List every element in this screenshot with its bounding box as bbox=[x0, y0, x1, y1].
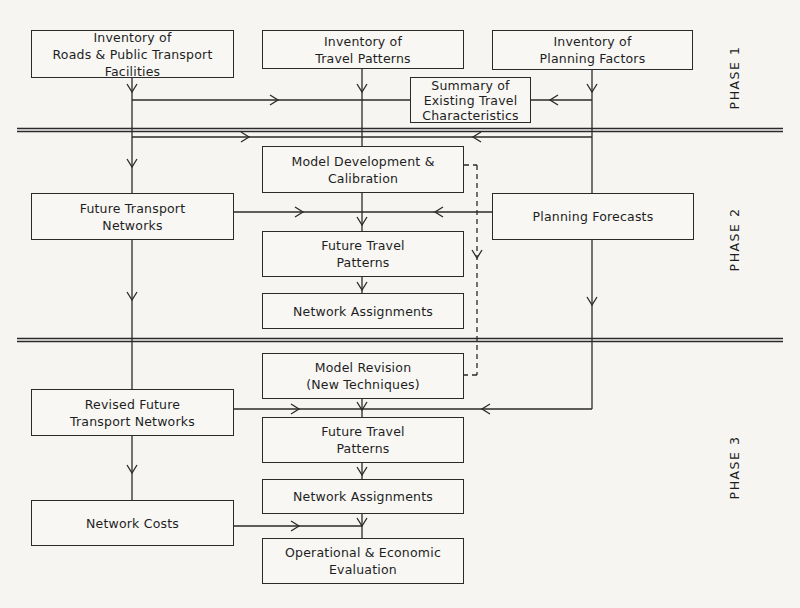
node-summary-existing-travel: Summary of Existing Travel Characteristi… bbox=[410, 77, 531, 123]
node-future-travel-patterns-2: Future Travel Patterns bbox=[262, 231, 464, 277]
node-label: Summary of Existing Travel Characteristi… bbox=[422, 78, 518, 123]
node-label: Inventory of Travel Patterns bbox=[315, 33, 411, 67]
node-label: Revised Future Transport Networks bbox=[70, 396, 195, 430]
node-inventory-roads: Inventory of Roads & Public Transport Fa… bbox=[31, 30, 234, 78]
node-label: Future Transport Networks bbox=[80, 200, 186, 234]
node-operational-economic-evaluation: Operational & Economic Evaluation bbox=[262, 538, 464, 584]
node-label: Network Costs bbox=[86, 515, 179, 532]
dashed-feedback-line bbox=[464, 165, 477, 375]
node-label: Network Assignments bbox=[293, 303, 433, 320]
node-inventory-travel-patterns: Inventory of Travel Patterns bbox=[262, 30, 464, 69]
node-network-costs: Network Costs bbox=[31, 500, 234, 546]
node-label: Model Development & Calibration bbox=[291, 153, 434, 187]
node-label: Inventory of Roads & Public Transport Fa… bbox=[53, 29, 213, 80]
phase-3-label: PHASE 3 bbox=[727, 428, 742, 508]
node-future-transport-networks: Future Transport Networks bbox=[31, 193, 234, 240]
node-planning-forecasts: Planning Forecasts bbox=[492, 193, 694, 240]
node-network-assignments-2: Network Assignments bbox=[262, 293, 464, 329]
node-label: Inventory of Planning Factors bbox=[540, 33, 646, 67]
node-model-revision: Model Revision (New Techniques) bbox=[262, 353, 464, 399]
phase-1-label: PHASE 1 bbox=[727, 38, 742, 118]
node-label: Operational & Economic Evaluation bbox=[285, 544, 441, 578]
node-label: Model Revision (New Techniques) bbox=[306, 359, 420, 393]
node-label: Planning Forecasts bbox=[533, 208, 654, 225]
flowchart-canvas: Inventory of Roads & Public Transport Fa… bbox=[0, 0, 800, 608]
node-label: Future Travel Patterns bbox=[321, 237, 405, 271]
node-model-development: Model Development & Calibration bbox=[262, 146, 464, 193]
node-label: Network Assignments bbox=[293, 488, 433, 505]
node-network-assignments-3: Network Assignments bbox=[262, 479, 464, 514]
phase-2-label: PHASE 2 bbox=[727, 200, 742, 280]
node-revised-future-networks: Revised Future Transport Networks bbox=[31, 389, 234, 436]
node-future-travel-patterns-3: Future Travel Patterns bbox=[262, 417, 464, 463]
node-label: Future Travel Patterns bbox=[321, 423, 405, 457]
node-inventory-planning-factors: Inventory of Planning Factors bbox=[492, 30, 693, 70]
